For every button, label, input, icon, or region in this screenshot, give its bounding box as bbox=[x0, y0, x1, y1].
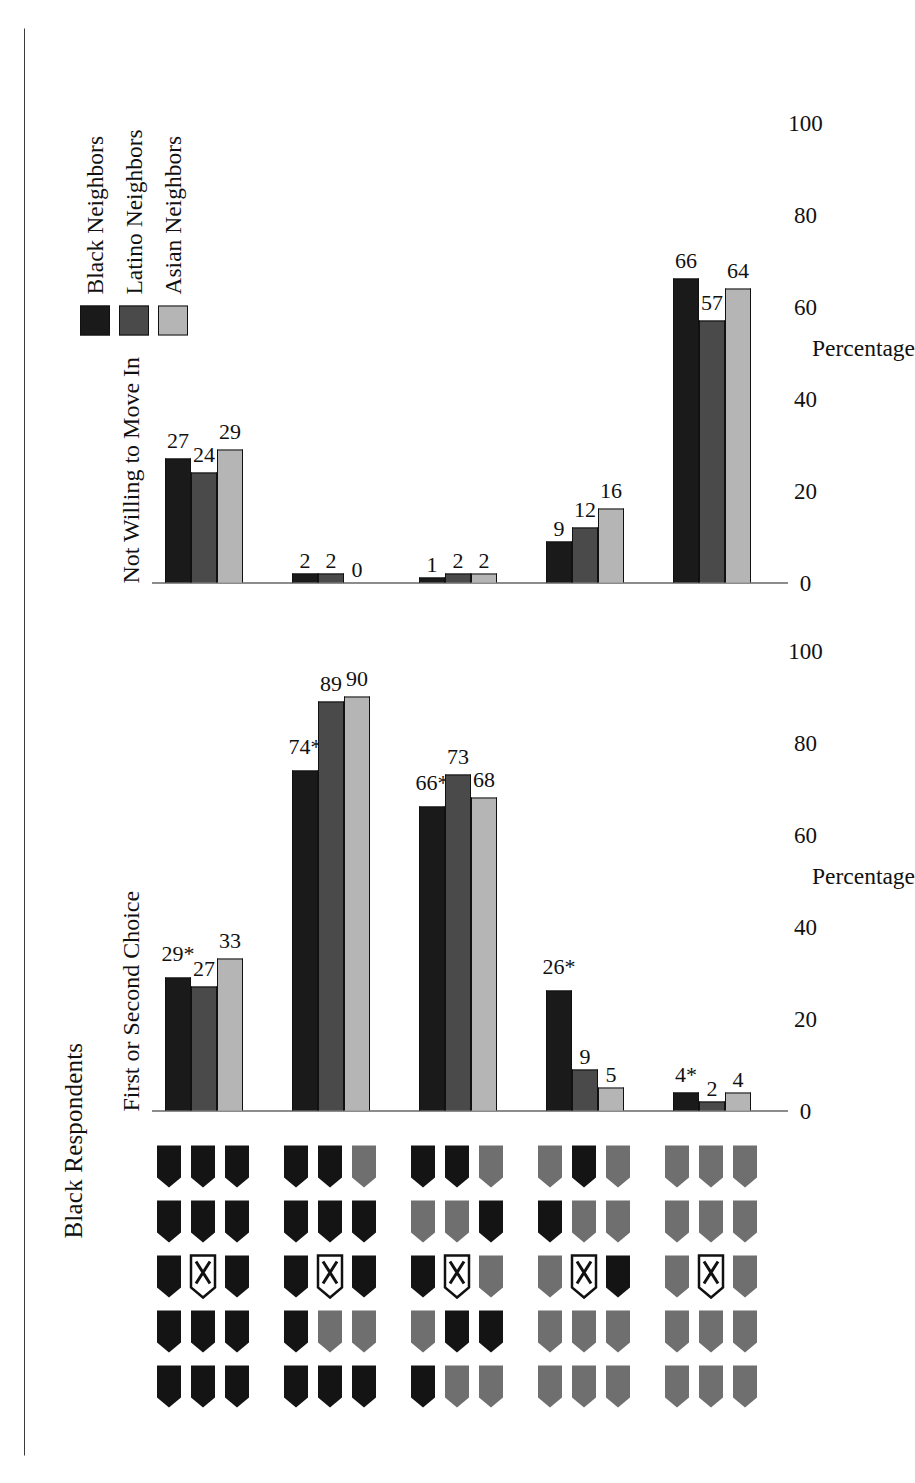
bar-value-label: 66* bbox=[415, 772, 448, 794]
legend-item: Black Neighbors bbox=[80, 129, 110, 335]
house-icon bbox=[535, 1198, 565, 1244]
neighborhood-house-grid bbox=[281, 1136, 381, 1409]
house-icon bbox=[603, 1253, 633, 1299]
bar bbox=[471, 573, 497, 582]
bar-row: 68 bbox=[471, 640, 497, 1110]
house-icon bbox=[315, 1308, 345, 1354]
bar-value-label: 12 bbox=[574, 498, 596, 520]
house-icon bbox=[154, 1363, 184, 1409]
plot-area: 27242922012291216665764 bbox=[152, 113, 788, 583]
bar-row: 9 bbox=[546, 112, 572, 582]
house-icon bbox=[188, 1143, 218, 1189]
house-icon bbox=[188, 1363, 218, 1409]
bar bbox=[445, 774, 471, 1110]
x-tick-label: 0 bbox=[800, 1100, 812, 1123]
house-icon bbox=[730, 1363, 760, 1409]
bar-row: 4* bbox=[673, 640, 699, 1110]
house-icon bbox=[603, 1143, 633, 1189]
house-icon bbox=[281, 1363, 311, 1409]
bar bbox=[165, 458, 191, 582]
respondent-home-icon bbox=[188, 1253, 218, 1299]
bar-row: 57 bbox=[699, 112, 725, 582]
house-icon bbox=[662, 1308, 692, 1354]
bar-value-label: 90 bbox=[346, 667, 368, 689]
house-icon bbox=[662, 1198, 692, 1244]
house-icon bbox=[349, 1143, 379, 1189]
x-tick-label: 0 bbox=[800, 572, 812, 595]
x-axis-caption: Percentage bbox=[812, 863, 915, 890]
bar-row: 2 bbox=[445, 112, 471, 582]
house-icon bbox=[535, 1143, 565, 1189]
bar-value-label: 2 bbox=[478, 549, 489, 571]
x-tick-label: 80 bbox=[794, 732, 817, 755]
house-icon bbox=[696, 1143, 726, 1189]
panel-first-or-second-choice: First or Second Choice 29*273374*899066*… bbox=[118, 611, 830, 1111]
bar bbox=[725, 1092, 751, 1110]
bar-row: 4 bbox=[725, 640, 751, 1110]
x-tick-label: 40 bbox=[794, 916, 817, 939]
house-icon bbox=[222, 1253, 252, 1299]
bar-value-label: 27 bbox=[193, 957, 215, 979]
house-icon bbox=[154, 1143, 184, 1189]
house-icon bbox=[730, 1143, 760, 1189]
bar bbox=[598, 1087, 624, 1110]
house-icon bbox=[442, 1308, 472, 1354]
bar bbox=[546, 990, 572, 1110]
category-icon-group bbox=[661, 1121, 764, 1409]
bar-value-label: 2 bbox=[707, 1077, 718, 1099]
x-axis-ticks: 020406080100Percentage bbox=[790, 641, 850, 1111]
bar-value-label: 24 bbox=[193, 443, 215, 465]
bar-value-label: 2 bbox=[325, 549, 336, 571]
bar-value-label: 29* bbox=[161, 942, 194, 964]
bar bbox=[673, 278, 699, 582]
category-icon-group bbox=[279, 1121, 382, 1409]
bar-row: 33 bbox=[217, 640, 243, 1110]
bar bbox=[546, 541, 572, 582]
house-icon bbox=[349, 1363, 379, 1409]
bar-value-label: 9 bbox=[554, 517, 565, 539]
x-tick-label: 60 bbox=[794, 296, 817, 319]
house-icon bbox=[154, 1198, 184, 1244]
bar bbox=[471, 797, 497, 1110]
bar-row: 2 bbox=[471, 112, 497, 582]
bar-value-label: 89 bbox=[320, 672, 342, 694]
neighborhood-house-grid bbox=[535, 1136, 635, 1409]
respondent-home-icon bbox=[442, 1253, 472, 1299]
house-icon bbox=[442, 1198, 472, 1244]
bar-value-label: 0 bbox=[351, 559, 362, 581]
bar-group: 26*95 bbox=[534, 640, 637, 1110]
bar-value-label: 29 bbox=[219, 420, 241, 442]
house-icon bbox=[476, 1143, 506, 1189]
bar-value-label: 2 bbox=[452, 549, 463, 571]
bar bbox=[673, 1092, 699, 1110]
bar-row: 1 bbox=[419, 112, 445, 582]
bar-value-label: 73 bbox=[447, 745, 469, 767]
house-icon bbox=[603, 1198, 633, 1244]
house-icon bbox=[281, 1253, 311, 1299]
neighborhood-house-grid bbox=[408, 1136, 508, 1409]
house-icon bbox=[349, 1253, 379, 1299]
bar-row: 27 bbox=[165, 112, 191, 582]
bar-group: 220 bbox=[279, 112, 382, 582]
house-icon bbox=[603, 1308, 633, 1354]
legend-label: Black Neighbors bbox=[82, 135, 109, 294]
category-icon-group bbox=[406, 1121, 509, 1409]
house-icon bbox=[535, 1253, 565, 1299]
neighborhood-house-grid bbox=[662, 1136, 762, 1409]
bar-row: 26* bbox=[546, 640, 572, 1110]
bar-value-label: 1 bbox=[426, 554, 437, 576]
bar-group: 4*24 bbox=[661, 640, 764, 1110]
bar bbox=[572, 1069, 598, 1110]
category-icon-group bbox=[534, 1121, 637, 1409]
house-icon bbox=[188, 1198, 218, 1244]
bar-value-label: 68 bbox=[473, 768, 495, 790]
respondent-home-icon bbox=[696, 1253, 726, 1299]
bar-group: 272429 bbox=[152, 112, 255, 582]
house-icon bbox=[315, 1198, 345, 1244]
house-icon bbox=[281, 1198, 311, 1244]
house-icon bbox=[730, 1308, 760, 1354]
house-icon bbox=[154, 1253, 184, 1299]
bar-value-label: 33 bbox=[219, 929, 241, 951]
house-icon bbox=[281, 1308, 311, 1354]
